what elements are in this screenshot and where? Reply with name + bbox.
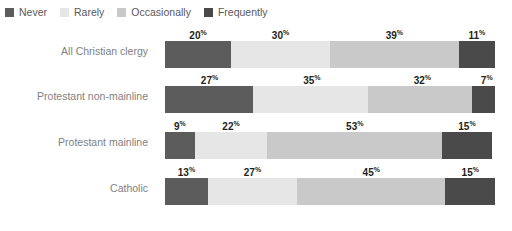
data-label: 15%: [462, 163, 479, 179]
data-label-value: 27: [244, 167, 255, 178]
data-label-value: 20: [189, 30, 200, 41]
chart-row: Catholic13%27%45%15%: [0, 161, 512, 205]
legend-swatch-icon: [60, 8, 69, 17]
chart-row: Protestant non-mainline27%35%32%7%: [0, 69, 512, 113]
legend-item-label: Frequently: [218, 5, 268, 19]
bar-segment-rarely: [231, 41, 330, 68]
bar-segment-occasionally: [297, 178, 446, 205]
data-label-value: 11: [468, 30, 479, 41]
legend-swatch-icon: [5, 8, 14, 17]
legend-item-occasionally[interactable]: Occasionally: [117, 5, 191, 19]
data-label: 9%: [174, 117, 186, 133]
legend-swatch-icon: [204, 8, 213, 17]
data-label-value: 39: [386, 30, 397, 41]
data-label-value: 22: [222, 121, 233, 132]
percent-sign: %: [486, 74, 492, 81]
percent-sign: %: [473, 166, 479, 173]
stacked-bar: [165, 86, 495, 113]
bar-segment-never: [165, 41, 231, 68]
data-label-group: 9%22%53%15%: [165, 117, 495, 131]
chart-legend: NeverRarelyOccasionallyFrequently: [5, 5, 268, 19]
legend-item-rarely[interactable]: Rarely: [60, 5, 104, 19]
percent-sign: %: [200, 29, 206, 36]
bar-segment-never: [165, 178, 208, 205]
percent-sign: %: [397, 29, 403, 36]
data-label-value: 53: [346, 121, 357, 132]
data-label: 20%: [189, 26, 206, 42]
data-label-value: 13: [178, 167, 189, 178]
percent-sign: %: [212, 74, 218, 81]
data-label: 35%: [303, 71, 320, 87]
legend-item-label: Occasionally: [131, 5, 191, 19]
data-label-value: 45: [363, 167, 374, 178]
category-label: Catholic: [0, 181, 148, 195]
data-label: 30%: [272, 26, 289, 42]
data-label-value: 15: [458, 121, 469, 132]
legend-item-label: Rarely: [74, 5, 104, 19]
category-label: All Christian clergy: [0, 44, 148, 58]
percent-sign: %: [180, 120, 186, 127]
stacked-bar: [165, 41, 495, 68]
percent-sign: %: [357, 120, 363, 127]
data-label-value: 35: [303, 75, 314, 86]
bar-segment-frequently: [442, 132, 492, 159]
bar-segment-rarely: [253, 86, 367, 113]
data-label: 7%: [481, 71, 493, 87]
percent-sign: %: [425, 74, 431, 81]
legend-item-never[interactable]: Never: [5, 5, 47, 19]
data-label: 32%: [414, 71, 431, 87]
bar-segment-occasionally: [368, 86, 473, 113]
category-label: Protestant non-mainline: [0, 89, 148, 103]
data-label: 39%: [386, 26, 403, 42]
data-label: 11%: [468, 26, 485, 42]
data-label: 45%: [363, 163, 380, 179]
bar-segment-frequently: [472, 86, 495, 113]
bar-segment-rarely: [208, 178, 297, 205]
percent-sign: %: [189, 166, 195, 173]
data-label: 53%: [346, 117, 363, 133]
bar-segment-rarely: [195, 132, 268, 159]
data-label-value: 27: [201, 75, 212, 86]
percent-sign: %: [283, 29, 289, 36]
legend-item-label: Never: [19, 5, 47, 19]
stacked-bar: [165, 132, 495, 159]
data-label-group: 20%30%39%11%: [165, 26, 495, 40]
percent-sign: %: [374, 166, 380, 173]
data-label-value: 15: [462, 167, 473, 178]
data-label: 27%: [201, 71, 218, 87]
bar-segment-occasionally: [267, 132, 442, 159]
data-label: 13%: [178, 163, 195, 179]
stacked-bar: [165, 178, 495, 205]
bar-segment-never: [165, 86, 253, 113]
category-label: Protestant mainline: [0, 135, 148, 149]
plot-area: All Christian clergy20%30%39%11%Protesta…: [0, 24, 512, 231]
percent-sign: %: [314, 74, 320, 81]
chart-row: Protestant mainline9%22%53%15%: [0, 115, 512, 159]
bar-segment-never: [165, 132, 195, 159]
data-label-group: 27%35%32%7%: [165, 71, 495, 85]
bar-segment-occasionally: [330, 41, 459, 68]
data-label: 22%: [222, 117, 239, 133]
percent-sign: %: [233, 120, 239, 127]
bar-segment-frequently: [459, 41, 495, 68]
data-label-value: 32: [414, 75, 425, 86]
legend-item-frequently[interactable]: Frequently: [204, 5, 268, 19]
data-label: 27%: [244, 163, 261, 179]
percent-sign: %: [255, 166, 261, 173]
bar-segment-frequently: [445, 178, 495, 205]
data-label-value: 30: [272, 30, 283, 41]
stacked-bar-chart: NeverRarelyOccasionallyFrequently All Ch…: [0, 0, 512, 231]
legend-swatch-icon: [117, 8, 126, 17]
data-label-group: 13%27%45%15%: [165, 163, 495, 177]
data-label: 15%: [458, 117, 475, 133]
percent-sign: %: [469, 120, 475, 127]
chart-row: All Christian clergy20%30%39%11%: [0, 24, 512, 68]
percent-sign: %: [479, 29, 485, 36]
